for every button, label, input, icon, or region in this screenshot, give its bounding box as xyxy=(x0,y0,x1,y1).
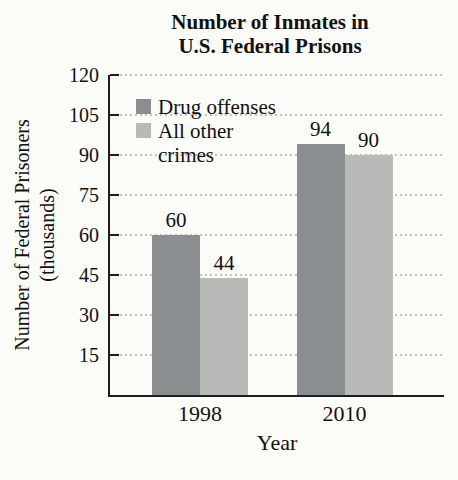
bar-value-label-1998-1: 44 xyxy=(200,251,248,275)
y-tick-105 xyxy=(110,114,119,116)
x-tick-label-1998: 1998 xyxy=(160,401,240,427)
gridline-120 xyxy=(120,74,443,76)
bar-value-label-1998-0: 60 xyxy=(152,208,200,232)
legend: Drug offenses All other crimes xyxy=(136,95,276,167)
y-tick-label-60: 60 xyxy=(55,223,99,247)
y-tick-label-30: 30 xyxy=(55,303,99,327)
y-tick-60 xyxy=(110,234,119,236)
gridline-75 xyxy=(120,194,443,196)
legend-item-drug-offenses: Drug offenses xyxy=(136,95,276,119)
legend-label-all-other-crimes: All other crimes xyxy=(158,119,233,167)
bar-value-label-2010-0: 94 xyxy=(297,117,345,141)
x-axis-title: Year xyxy=(197,430,357,456)
legend-label-drug-offenses: Drug offenses xyxy=(158,95,276,119)
y-tick-label-15: 15 xyxy=(55,343,99,367)
y-tick-45 xyxy=(110,274,119,276)
legend-item-all-other-crimes: All other crimes xyxy=(136,119,276,167)
legend-swatch-all-other-crimes xyxy=(136,123,151,138)
bar-1998-drug-offenses xyxy=(152,235,200,395)
bar-value-label-2010-1: 90 xyxy=(345,128,393,152)
plot-area: Drug offenses All other crimes 153045607… xyxy=(0,0,458,480)
bar-chart-figure: Number of Inmates in U.S. Federal Prison… xyxy=(0,0,458,480)
x-tick-label-2010: 2010 xyxy=(305,401,385,427)
y-tick-label-75: 75 xyxy=(55,183,99,207)
x-axis-line xyxy=(108,395,444,397)
bar-2010-drug-offenses xyxy=(297,144,345,395)
legend-swatch-drug-offenses xyxy=(136,99,151,114)
legend-label-all-other-crimes-line2: crimes xyxy=(158,143,233,167)
y-tick-90 xyxy=(110,154,119,156)
y-tick-label-105: 105 xyxy=(55,103,99,127)
legend-label-all-other-crimes-line1: All other xyxy=(158,119,233,143)
y-tick-30 xyxy=(110,314,119,316)
y-tick-label-45: 45 xyxy=(55,263,99,287)
y-axis-line xyxy=(108,75,110,397)
bar-1998-all-other-crimes xyxy=(200,278,248,395)
bar-2010-all-other-crimes xyxy=(345,155,393,395)
y-tick-15 xyxy=(110,354,119,356)
y-tick-75 xyxy=(110,194,119,196)
y-tick-label-120: 120 xyxy=(55,63,99,87)
y-tick-120 xyxy=(110,74,119,76)
y-tick-label-90: 90 xyxy=(55,143,99,167)
